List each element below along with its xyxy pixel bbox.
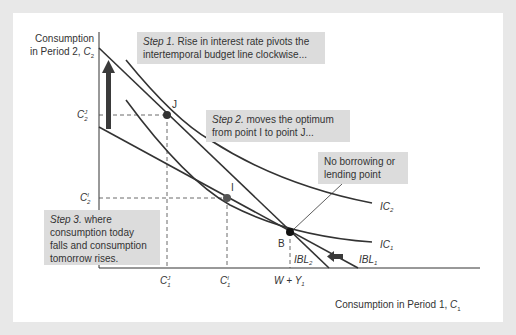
step3-note: Step 3. where consumption today falls an… — [44, 210, 160, 265]
tick-c2-j: CJ2 — [77, 109, 88, 122]
no-borrowing-note: No borrowing or lending point — [318, 152, 408, 184]
point-i-label: I — [231, 182, 234, 193]
point-i — [223, 194, 231, 202]
ic2-label: IC2 — [380, 201, 394, 213]
leader-line — [294, 184, 342, 229]
tick-c1-i: CI1 — [220, 275, 230, 288]
ibl1-label: IBL1 — [359, 254, 377, 266]
up-arrow-icon — [102, 60, 115, 129]
point-j — [163, 111, 171, 119]
y-axis-title-line2: in Period 2, C2 — [22, 45, 94, 63]
point-b — [286, 228, 294, 236]
point-j-label: J — [172, 99, 177, 110]
tick-c2-i: CI2 — [80, 192, 91, 205]
tick-w-y1: W + Y1 — [274, 275, 305, 287]
tick-c1-j: CJ1 — [160, 275, 171, 288]
point-b-label: B — [278, 238, 285, 249]
step2-note: Step 2. moves the optimum from point I t… — [206, 110, 350, 142]
ic1-label: IC1 — [380, 239, 393, 251]
y-axis-title-line1: Consumption — [22, 32, 94, 45]
step1-note: Step 1. Rise in interest rate pivots the… — [137, 32, 325, 64]
y-axis-title: Consumption in Period 2, C2 — [22, 32, 94, 63]
x-axis-title: Consumption in Period 1, C1 — [335, 298, 461, 316]
ibl2-label: IBL2 — [294, 254, 313, 266]
